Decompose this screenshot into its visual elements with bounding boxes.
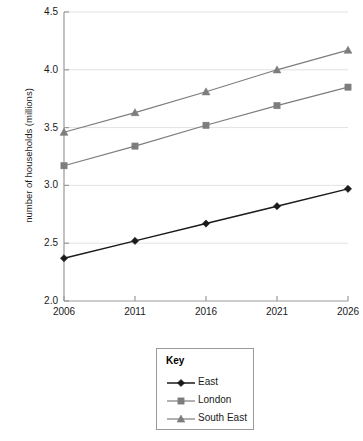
x-axis-tick-label: 2016	[183, 306, 229, 317]
x-axis-tick-label: 2026	[325, 306, 363, 317]
x-axis-tick-label: 2021	[254, 306, 300, 317]
legend-entries: EastLondonSouth East	[166, 372, 253, 426]
x-axis-tick-label: 2006	[41, 306, 87, 317]
x-axis-tick-labels: 20062011201620212026	[64, 306, 348, 322]
y-axis-tick-label: 2.5	[24, 238, 58, 248]
data-point-marker	[344, 46, 352, 53]
y-axis-tick-labels: 2.02.53.03.54.04.5	[24, 0, 58, 313]
data-point-marker	[344, 185, 351, 192]
data-point-marker	[132, 143, 138, 149]
y-axis-tick-label: 2.0	[24, 296, 58, 306]
data-point-marker	[345, 84, 351, 90]
y-axis-tick-label: 4.0	[24, 65, 58, 75]
legend-entry-east: East	[166, 372, 253, 390]
legend-label: South East	[196, 412, 247, 423]
data-point-marker	[177, 379, 184, 386]
chart-legend: Key EastLondonSouth East	[156, 348, 254, 430]
y-axis-tick-label: 3.0	[24, 180, 58, 190]
data-point-marker	[60, 255, 67, 262]
legend-entry-london: London	[166, 390, 253, 408]
data-point-marker	[178, 398, 184, 404]
legend-title: Key	[166, 355, 253, 367]
data-point-marker	[202, 220, 209, 227]
y-axis-tick-label: 4.5	[24, 7, 58, 17]
plot-area	[64, 12, 348, 301]
legend-marker-square-icon	[166, 393, 196, 405]
data-point-marker	[61, 163, 67, 169]
chart-plot-svg	[64, 12, 348, 325]
legend-marker-triangle-icon	[166, 411, 196, 423]
legend-entry-south-east: South East	[166, 408, 253, 426]
legend-marker-diamond-icon	[166, 375, 196, 387]
chart-container: number of households (millions) 2.02.53.…	[0, 0, 363, 441]
y-axis-tick-label: 3.5	[24, 123, 58, 133]
data-point-marker	[203, 122, 209, 128]
legend-label: London	[196, 394, 231, 405]
legend-label: East	[196, 376, 218, 387]
x-axis-tick-label: 2011	[112, 306, 158, 317]
data-point-marker	[273, 203, 280, 210]
data-point-marker	[274, 103, 280, 109]
